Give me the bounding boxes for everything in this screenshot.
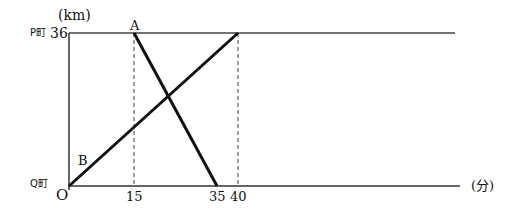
origin-label: O [56,188,68,203]
y-unit-label: (km) [58,8,91,22]
series-b-label: B [78,154,88,167]
x-tick-40: 40 [230,190,247,203]
chart-plot [0,0,519,214]
x-unit-label: (分) [471,179,494,192]
p-town-label: P町 [30,28,46,38]
x-tick-35: 35 [209,190,226,203]
series-a-line [134,33,217,186]
q-town-label: Q町 [30,179,48,189]
series-b-line [69,33,238,186]
series-a-label: A [130,19,139,32]
x-tick-15: 15 [126,190,143,203]
y-tick-36: 36 [50,26,68,40]
